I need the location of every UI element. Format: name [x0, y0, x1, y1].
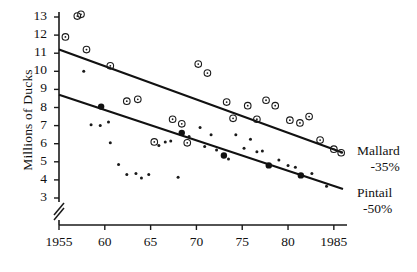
x-tick-label: 65	[127, 234, 175, 250]
data-point-mallard-center	[247, 105, 249, 107]
data-point-pintail	[99, 124, 102, 127]
data-point-mallard-center	[181, 123, 183, 125]
data-point-pintail	[227, 158, 230, 161]
data-point-pintail	[140, 177, 143, 180]
y-tick-label: 10	[17, 62, 47, 78]
x-tick-label: 1985	[310, 234, 358, 250]
y-tick-label: 4	[17, 171, 47, 187]
legend-entry-mallard: Mallard -35%	[357, 143, 400, 175]
data-point-pintail	[188, 135, 191, 138]
data-point-pintail	[215, 149, 218, 152]
data-point-mallard-center	[232, 117, 234, 119]
trend-marker-pintail	[179, 130, 185, 136]
data-point-pintail	[310, 172, 313, 175]
trend-marker-pintail	[298, 172, 304, 178]
data-point-pintail	[261, 149, 264, 152]
data-point-mallard-center	[274, 105, 276, 107]
y-tick-label: 6	[17, 135, 47, 151]
data-point-mallard-center	[197, 63, 199, 65]
y-tick-label: 12	[17, 26, 47, 42]
duck-population-chart: Millions of Ducks 1312111098765431955606…	[0, 0, 417, 272]
y-tick-label: 5	[17, 153, 47, 169]
data-point-pintail	[147, 173, 150, 176]
data-point-mallard-center	[319, 139, 321, 141]
data-point-mallard-center	[265, 99, 267, 101]
data-point-pintail	[234, 133, 237, 136]
data-point-pintail	[107, 120, 110, 123]
x-tick-label: 60	[81, 234, 129, 250]
data-point-pintail	[117, 163, 120, 166]
data-point-pintail	[277, 158, 280, 161]
data-point-pintail	[157, 144, 160, 147]
data-point-mallard-center	[207, 72, 209, 74]
data-point-pintail	[203, 145, 206, 148]
plot-area	[0, 0, 417, 272]
legend-label-pintail: Pintail	[357, 185, 392, 201]
data-point-mallard-center	[80, 13, 82, 15]
x-tick-label: 1955	[35, 234, 83, 250]
data-point-pintail	[134, 172, 137, 175]
data-point-pintail	[125, 173, 128, 176]
data-point-mallard-center	[86, 49, 88, 51]
data-point-mallard-center	[256, 118, 258, 120]
x-tick-label: 80	[264, 234, 312, 250]
data-point-mallard-center	[109, 65, 111, 67]
y-tick-label: 8	[17, 99, 47, 115]
data-point-mallard-center	[137, 98, 139, 100]
legend-entry-pintail: Pintail -50%	[357, 185, 392, 217]
x-tick-label: 75	[218, 234, 266, 250]
legend-value-mallard: -35%	[357, 159, 400, 175]
data-point-pintail	[287, 164, 290, 167]
legend-label-mallard: Mallard	[357, 143, 400, 159]
data-point-mallard-center	[289, 119, 291, 121]
data-point-mallard-center	[340, 152, 342, 154]
trend-marker-pintail	[221, 152, 227, 158]
y-tick-label: 9	[17, 80, 47, 96]
data-point-pintail	[164, 140, 167, 143]
data-point-mallard-center	[153, 141, 155, 143]
data-point-pintail	[294, 166, 297, 169]
legend-value-pintail: -50%	[357, 201, 392, 217]
data-point-pintail	[255, 150, 258, 153]
data-point-mallard-center	[172, 118, 174, 120]
y-tick-label: 7	[17, 117, 47, 133]
data-point-pintail	[243, 147, 246, 150]
trend-marker-pintail	[98, 103, 104, 109]
data-point-pintail	[177, 176, 180, 179]
data-point-mallard-center	[65, 36, 67, 38]
data-point-mallard-center	[299, 122, 301, 124]
data-point-mallard-center	[308, 116, 310, 118]
data-point-pintail	[210, 133, 213, 136]
trend-marker-pintail	[266, 162, 272, 168]
data-point-mallard-center	[226, 101, 228, 103]
x-tick-label: 70	[172, 234, 220, 250]
data-point-mallard-center	[333, 148, 335, 150]
data-point-pintail	[199, 126, 202, 129]
data-point-pintail	[90, 123, 93, 126]
y-tick-label: 11	[17, 44, 47, 60]
data-point-mallard-center	[126, 100, 128, 102]
data-point-pintail	[169, 139, 172, 142]
y-tick-label: 3	[17, 189, 47, 205]
data-point-pintail	[109, 141, 112, 144]
data-point-pintail	[325, 185, 328, 188]
data-point-pintail	[82, 70, 85, 73]
y-tick-label: 13	[17, 8, 47, 24]
data-point-pintail	[249, 138, 252, 141]
data-point-mallard-center	[186, 142, 188, 144]
